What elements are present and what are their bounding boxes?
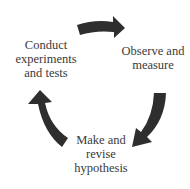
- curved-arrow-up-icon: [28, 90, 68, 147]
- curved-arrow-right-icon: [77, 16, 125, 38]
- science-cycle-diagram: Conduct experiments and tests Observe an…: [0, 0, 190, 189]
- step-observe-line-2: measure: [117, 58, 189, 72]
- step-observe-label: Observe and measure: [117, 44, 189, 72]
- step-experiment-label: Conduct experiments and tests: [12, 38, 80, 80]
- step-experiment-line-2: experiments: [12, 52, 80, 66]
- step-observe-line-1: Observe and: [117, 44, 189, 58]
- curved-arrow-down-left-icon: [132, 93, 166, 147]
- step-hypothesis-line-3: hypothesis: [68, 161, 134, 175]
- step-hypothesis-line-1: Make and: [68, 133, 134, 147]
- step-hypothesis-label: Make and revise hypothesis: [68, 133, 134, 175]
- step-hypothesis-line-2: revise: [68, 147, 134, 161]
- step-experiment-line-1: Conduct: [12, 38, 80, 52]
- step-experiment-line-3: and tests: [12, 66, 80, 80]
